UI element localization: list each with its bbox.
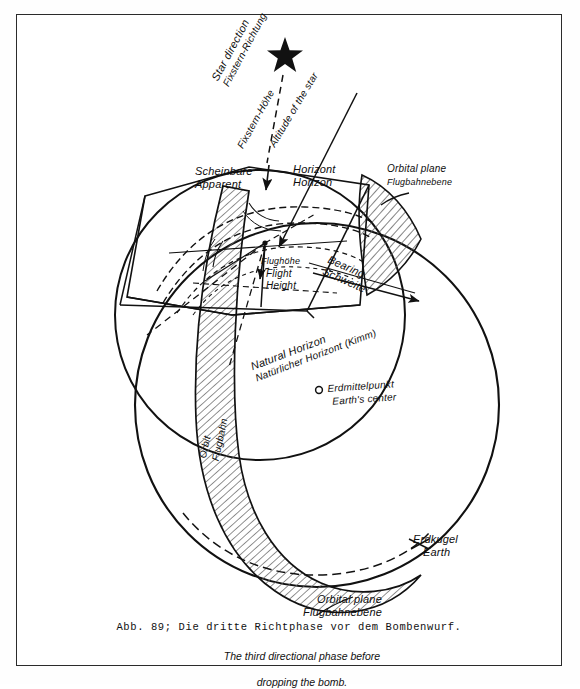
- label-earth-de: Erdkugel: [413, 533, 458, 546]
- figure-caption-de: Abb. 89; Die dritte Richtphase vor dem B…: [17, 621, 561, 633]
- label-flight-height-de: Flughöhe: [261, 255, 300, 268]
- label-orbital-plane-bottom-de: Flugbahnebene: [303, 606, 382, 619]
- label-horizon-en: Horizon: [293, 176, 336, 189]
- label-orbital-plane-bottom: Orbital plane Flugbahnebene: [317, 593, 382, 618]
- star-marker: [267, 37, 303, 72]
- label-earth: Erdkugel Earth: [413, 533, 458, 558]
- earth-outline-overlay: [135, 405, 499, 587]
- label-orbital-plane-top-en: Orbital plane: [387, 163, 452, 176]
- label-horizon: Horizont Horizon: [293, 163, 336, 188]
- earth-center-marker: [316, 387, 323, 394]
- label-orbital-plane-bottom-en: Orbital plane: [317, 593, 382, 606]
- label-horizon-de: Horizont: [293, 163, 336, 176]
- aircraft-position-marker: [169, 240, 347, 253]
- label-earth-center: Erdmittelpunkt Earth's center: [327, 378, 397, 408]
- figure-caption-en-line2: dropping the bomb.: [257, 676, 347, 688]
- label-orbital-plane-top-de: Flugbahnebene: [387, 176, 452, 189]
- label-flight-height-en1: Flight: [261, 268, 300, 281]
- label-earth-en: Earth: [413, 546, 458, 559]
- label-orbital-plane-top: Orbital plane Flugbahnebene: [387, 163, 452, 188]
- figure-caption-en-line1: The third directional phase before: [224, 650, 380, 662]
- label-apparent-horizon-en: Apparent: [195, 178, 253, 191]
- figure-caption-en: The third directional phase before dropp…: [17, 637, 561, 689]
- label-apparent-horizon-de: Scheinbare: [195, 165, 253, 178]
- label-apparent-horizon: Scheinbare Apparent: [195, 165, 253, 190]
- figure-frame: Star direction Fixstern-Richtung Fixster…: [16, 14, 562, 666]
- label-flight-height: Flughöhe Flight Height: [261, 255, 300, 293]
- label-flight-height-en2: Height: [261, 280, 300, 293]
